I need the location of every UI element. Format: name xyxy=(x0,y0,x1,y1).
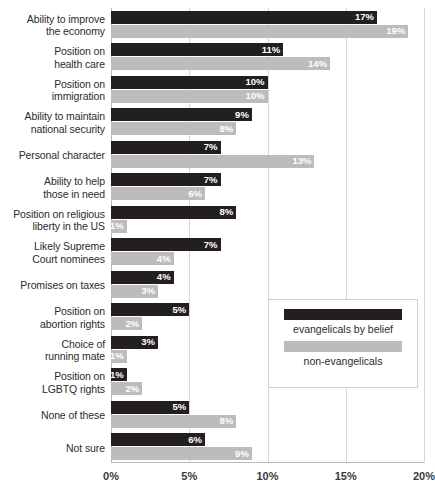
category-label-line: health care xyxy=(0,58,105,71)
bar-value-label: 9% xyxy=(235,449,252,459)
legend-swatch-icon-light xyxy=(284,341,402,352)
x-tick-label-10pct: 10% xyxy=(256,470,278,482)
bar-group-row: 7%4% xyxy=(111,238,424,271)
bar-non-evangelicals: 4% xyxy=(111,252,174,265)
category-label: Position onhealth care xyxy=(0,45,105,70)
bar-evangelicals: 11% xyxy=(111,43,283,56)
category-label: Likely SupremeCourt nominees xyxy=(0,240,105,265)
category-label-line: None of these xyxy=(0,409,105,422)
bar-value-label: 9% xyxy=(235,110,252,120)
category-label-line: those in need xyxy=(0,188,105,201)
category-label: Position onLGBTQ rights xyxy=(0,370,105,395)
category-label-line: Position on xyxy=(0,45,105,58)
plot-area: 17%19%11%14%10%10%9%8%7%13%7%6%8%1%7%4%4… xyxy=(111,8,424,463)
bar-non-evangelicals: 9% xyxy=(111,447,252,460)
bar-evangelicals: 6% xyxy=(111,433,205,446)
legend-label-evangelicals-by-belief: evangelicals by belief xyxy=(279,323,407,335)
bar-group-row: 8%1% xyxy=(111,206,424,239)
category-label: Position onimmigration xyxy=(0,78,105,103)
category-label: Position onabortion rights xyxy=(0,305,105,330)
category-label: Ability to maintainnational security xyxy=(0,110,105,135)
bar-group-row: 6%9% xyxy=(111,433,424,466)
bar-value-label: 8% xyxy=(219,207,236,217)
category-label-line: LGBTQ rights xyxy=(0,383,105,396)
bar-group-row: 5%8% xyxy=(111,401,424,434)
bar-non-evangelicals: 3% xyxy=(111,285,158,298)
x-tick-label-20pct: 20% xyxy=(413,470,435,482)
category-label-line: Promises on taxes xyxy=(0,279,105,292)
bar-non-evangelicals: 8% xyxy=(111,122,236,135)
category-label: Choice ofrunning mate xyxy=(0,338,105,363)
bar-non-evangelicals: 6% xyxy=(111,187,205,200)
category-label-line: abortion rights xyxy=(0,318,105,331)
category-label-line: Position on religious xyxy=(0,208,105,221)
bar-non-evangelicals: 8% xyxy=(111,415,236,428)
bar-value-label: 1% xyxy=(110,351,127,361)
bar-value-label: 1% xyxy=(110,221,127,231)
bar-non-evangelicals: 1% xyxy=(111,350,127,363)
x-tick-label-5pct: 5% xyxy=(181,470,197,482)
category-label: Ability to improvethe economy xyxy=(0,13,105,38)
category-label-line: Position on xyxy=(0,305,105,318)
category-label-line: Not sure xyxy=(0,442,105,455)
category-label: Not sure xyxy=(0,442,105,455)
bar-rows: 17%19%11%14%10%10%9%8%7%13%7%6%8%1%7%4%4… xyxy=(111,8,424,463)
bar-value-label: 3% xyxy=(141,337,158,347)
bar-value-label: 4% xyxy=(157,254,174,264)
category-label-line: immigration xyxy=(0,90,105,103)
category-label-line: Ability to maintain xyxy=(0,110,105,123)
bar-group-row: 7%6% xyxy=(111,173,424,206)
bar-value-label: 7% xyxy=(204,175,221,185)
x-tick-label-15pct: 15% xyxy=(335,470,357,482)
bar-value-label: 6% xyxy=(188,435,205,445)
bar-value-label: 2% xyxy=(126,319,143,329)
bar-value-label: 3% xyxy=(141,286,158,296)
bar-value-label: 8% xyxy=(219,124,236,134)
bar-value-label: 19% xyxy=(386,26,408,36)
legend-swatch-icon-dark xyxy=(284,309,402,320)
category-label-line: the economy xyxy=(0,25,105,38)
bar-value-label: 10% xyxy=(245,77,267,87)
category-label-line: Court nominees xyxy=(0,253,105,266)
category-label-line: Likely Supreme xyxy=(0,240,105,253)
bar-group-row: 10%10% xyxy=(111,76,424,109)
bar-non-evangelicals: 19% xyxy=(111,25,408,38)
bar-value-label: 2% xyxy=(126,384,143,394)
x-axis-line xyxy=(111,462,424,463)
category-label-line: Position on xyxy=(0,370,105,383)
legend-label-non-evangelicals: non-evangelicals xyxy=(279,355,407,367)
category-label-line: liberty in the US xyxy=(0,220,105,233)
bar-value-label: 5% xyxy=(173,402,190,412)
category-label: Ability to helpthose in need xyxy=(0,175,105,200)
bar-value-label: 6% xyxy=(188,189,205,199)
bar-value-label: 13% xyxy=(292,156,314,166)
category-label: Promises on taxes xyxy=(0,279,105,292)
category-label-line: national security xyxy=(0,123,105,136)
category-axis-labels: Ability to improvethe economyPosition on… xyxy=(0,8,105,463)
bar-non-evangelicals: 2% xyxy=(111,317,142,330)
bar-group-row: 17%19% xyxy=(111,11,424,44)
bar-evangelicals: 17% xyxy=(111,11,377,24)
category-label: Position on religiousliberty in the US xyxy=(0,208,105,233)
category-label-line: running mate xyxy=(0,350,105,363)
bar-non-evangelicals: 13% xyxy=(111,155,314,168)
bar-evangelicals: 8% xyxy=(111,206,236,219)
bar-value-label: 4% xyxy=(157,272,174,282)
bar-value-label: 11% xyxy=(262,45,284,55)
x-axis-tick-labels: 0%5%10%15%20% xyxy=(111,470,424,488)
bar-evangelicals: 3% xyxy=(111,336,158,349)
bar-value-label: 7% xyxy=(204,142,221,152)
bar-evangelicals: 7% xyxy=(111,238,221,251)
bar-non-evangelicals: 10% xyxy=(111,90,268,103)
bar-non-evangelicals: 2% xyxy=(111,382,142,395)
bar-value-label: 8% xyxy=(219,416,236,426)
bar-group-row: 11%14% xyxy=(111,43,424,76)
legend-item-evangelicals-by-belief: evangelicals by belief xyxy=(279,309,407,335)
bar-evangelicals: 7% xyxy=(111,173,221,186)
bar-value-label: 1% xyxy=(110,370,127,380)
bar-value-label: 7% xyxy=(204,240,221,250)
category-label-line: Ability to help xyxy=(0,175,105,188)
bar-group-row: 7%13% xyxy=(111,141,424,174)
bar-evangelicals: 5% xyxy=(111,303,189,316)
